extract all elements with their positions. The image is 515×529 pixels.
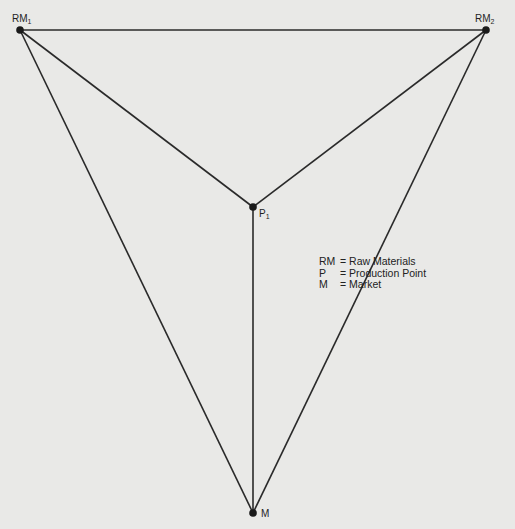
node-m-icon — [249, 509, 257, 517]
label-rm1-text: RM — [12, 13, 28, 24]
node-rm2-icon — [482, 26, 490, 34]
label-p1-sub: 1 — [266, 213, 270, 220]
label-m: M — [261, 509, 269, 519]
label-rm1: RM1 — [12, 14, 31, 25]
node-rm1-icon — [16, 26, 24, 34]
edge-rm1-p1 — [20, 30, 253, 207]
edge-rm1-m — [20, 30, 253, 513]
label-p1-text: P — [259, 208, 266, 219]
label-rm2-text: RM — [475, 13, 491, 24]
legend-item-m: M = Market — [319, 279, 426, 291]
location-diagram — [0, 0, 515, 529]
legend-value: = Raw Materials — [340, 256, 416, 268]
legend: RM = Raw Materials P = Production Point … — [319, 256, 426, 291]
label-rm1-sub: 1 — [28, 18, 32, 25]
label-m-text: M — [261, 508, 269, 519]
legend-item-rm: RM = Raw Materials — [319, 256, 426, 268]
legend-key: M — [319, 279, 340, 291]
label-rm2-sub: 2 — [491, 18, 495, 25]
legend-key: RM — [319, 256, 340, 268]
label-p1: P1 — [259, 209, 270, 220]
label-rm2: RM2 — [475, 14, 494, 25]
edge-rm2-p1 — [253, 30, 486, 207]
legend-value: = Market — [340, 279, 381, 291]
node-p1-icon — [249, 203, 257, 211]
